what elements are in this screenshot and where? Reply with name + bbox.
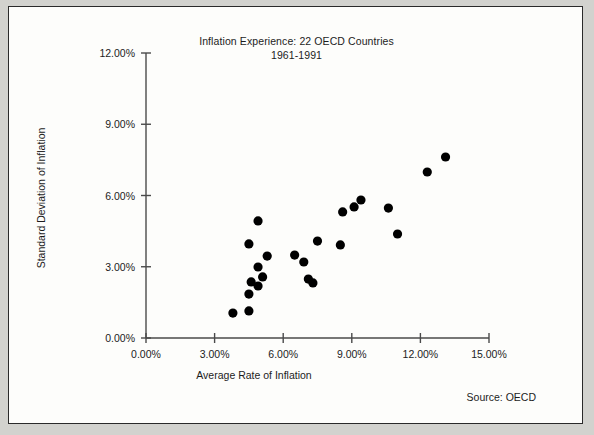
data-point bbox=[244, 239, 253, 248]
x-axis-label: Average Rate of Inflation bbox=[9, 369, 499, 381]
data-point bbox=[244, 289, 253, 298]
x-axis-tick-label: 0.00% bbox=[131, 348, 161, 360]
x-axis-tick-label: 6.00% bbox=[268, 348, 298, 360]
data-point bbox=[393, 229, 402, 238]
y-axis-tick-label: 0.00% bbox=[105, 332, 135, 344]
data-point bbox=[263, 251, 272, 260]
data-point bbox=[308, 278, 317, 287]
data-point bbox=[253, 262, 262, 271]
screenshot-page: Inflation Experience: 22 OECD Countries … bbox=[0, 0, 594, 435]
chart-plot-area: Inflation Experience: 22 OECD Countries … bbox=[9, 7, 584, 425]
y-axis-tick-label: 3.00% bbox=[105, 261, 135, 273]
data-point bbox=[253, 216, 262, 225]
data-point bbox=[441, 152, 450, 161]
data-point bbox=[349, 202, 358, 211]
data-point bbox=[336, 240, 345, 249]
data-point bbox=[290, 251, 299, 260]
data-point bbox=[338, 207, 347, 216]
y-axis-label: Standard Deviation of Inflation bbox=[35, 88, 47, 308]
x-axis-tick-label: 15.00% bbox=[471, 348, 507, 360]
y-axis-tick-label: 6.00% bbox=[105, 190, 135, 202]
data-point bbox=[253, 281, 262, 290]
y-axis-tick-label: 12.00% bbox=[99, 47, 135, 59]
data-point bbox=[356, 195, 365, 204]
x-axis-tick-label: 9.00% bbox=[337, 348, 367, 360]
data-point bbox=[384, 203, 393, 212]
x-axis-tick-label: 3.00% bbox=[200, 348, 230, 360]
data-point bbox=[228, 308, 237, 317]
y-axis-tick-label: 9.00% bbox=[105, 118, 135, 130]
data-point bbox=[299, 257, 308, 266]
scatter-plot-svg: 0.00%3.00%6.00%9.00%12.00%15.00%0.00%3.0… bbox=[9, 7, 584, 425]
source-note: Source: OECD bbox=[467, 391, 536, 403]
chart-frame: Inflation Experience: 22 OECD Countries … bbox=[8, 6, 583, 424]
x-axis-tick-label: 12.00% bbox=[403, 348, 439, 360]
data-point bbox=[423, 167, 432, 176]
data-point bbox=[258, 272, 267, 281]
data-point bbox=[313, 237, 322, 246]
data-point bbox=[244, 306, 253, 315]
